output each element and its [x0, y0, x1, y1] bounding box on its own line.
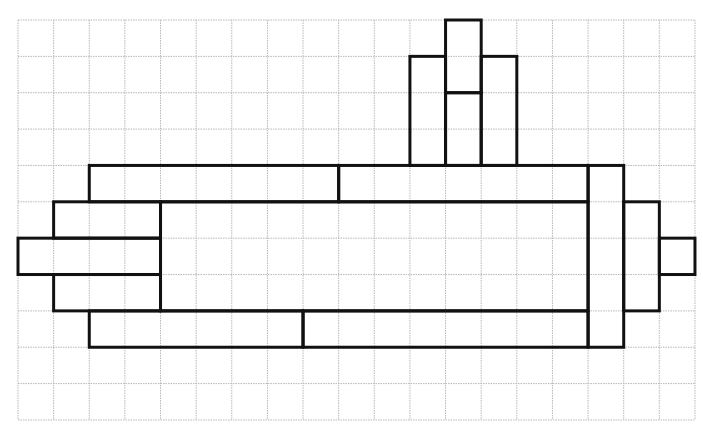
tower-left	[410, 56, 446, 165]
right-block	[624, 202, 660, 311]
top-bar-left	[89, 165, 338, 201]
block-figure	[18, 20, 695, 347]
grid-lines	[18, 20, 695, 420]
left-block-top	[54, 202, 161, 238]
tower-right	[481, 56, 517, 165]
grid-drawing-canvas	[0, 0, 703, 432]
right-column	[588, 165, 624, 347]
right-nib	[659, 238, 695, 274]
top-bar-right	[339, 165, 588, 201]
left-block-bottom	[54, 275, 161, 311]
